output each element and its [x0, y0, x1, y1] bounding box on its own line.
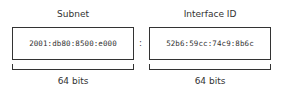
subnet-value: 2001:db80:8500:e000 [29, 39, 117, 48]
separator-colon: : [139, 38, 142, 48]
subnet-title: Subnet [12, 9, 134, 19]
subnet-bracket [12, 64, 134, 70]
interface-id-value: 52b6:59cc:74c9:8b6c [166, 39, 254, 48]
interface-id-title: Interface ID [149, 9, 271, 19]
interface-id-bracket [149, 64, 271, 70]
interface-id-bits-label: 64 bits [149, 76, 271, 86]
subnet-box: 2001:db80:8500:e000 [12, 27, 134, 60]
interface-id-box: 52b6:59cc:74c9:8b6c [149, 27, 271, 60]
subnet-bits-label: 64 bits [12, 76, 134, 86]
